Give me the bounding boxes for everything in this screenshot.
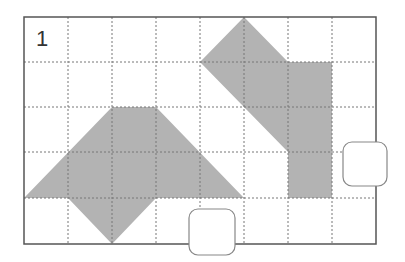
figure-number-label: 1: [36, 28, 48, 50]
answer-box-right[interactable]: [343, 142, 387, 186]
grid-figure: [0, 0, 405, 262]
answer-box-bottom[interactable]: [189, 209, 235, 255]
